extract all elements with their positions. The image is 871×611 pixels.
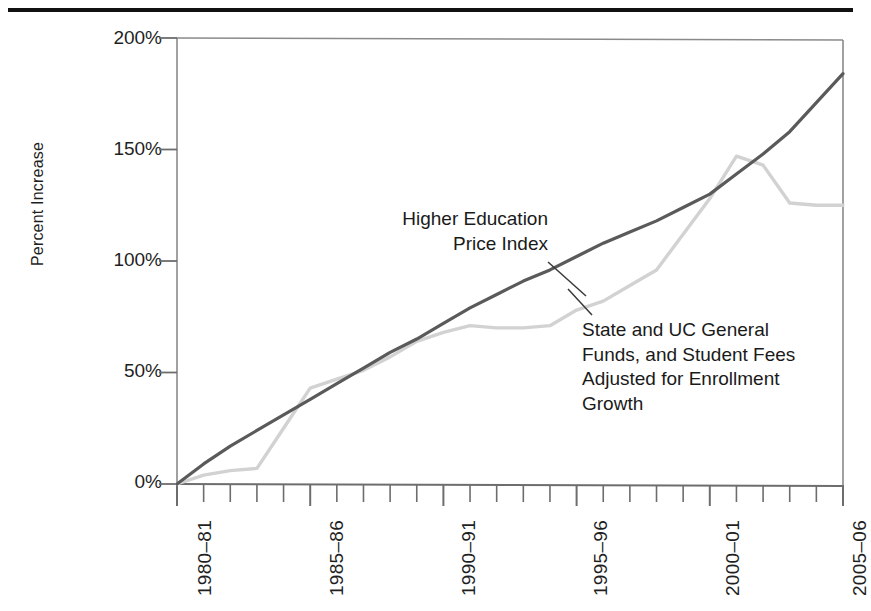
x-axis-ticks	[177, 485, 843, 506]
annotation-hepi: Higher Education Price Index	[332, 207, 548, 256]
leader-line-hepi	[548, 262, 586, 296]
annotation-state-uc-funds: State and UC General Funds, and Student …	[582, 318, 844, 417]
y-axis-ticks	[159, 38, 177, 484]
series-line-hepi	[177, 74, 843, 484]
